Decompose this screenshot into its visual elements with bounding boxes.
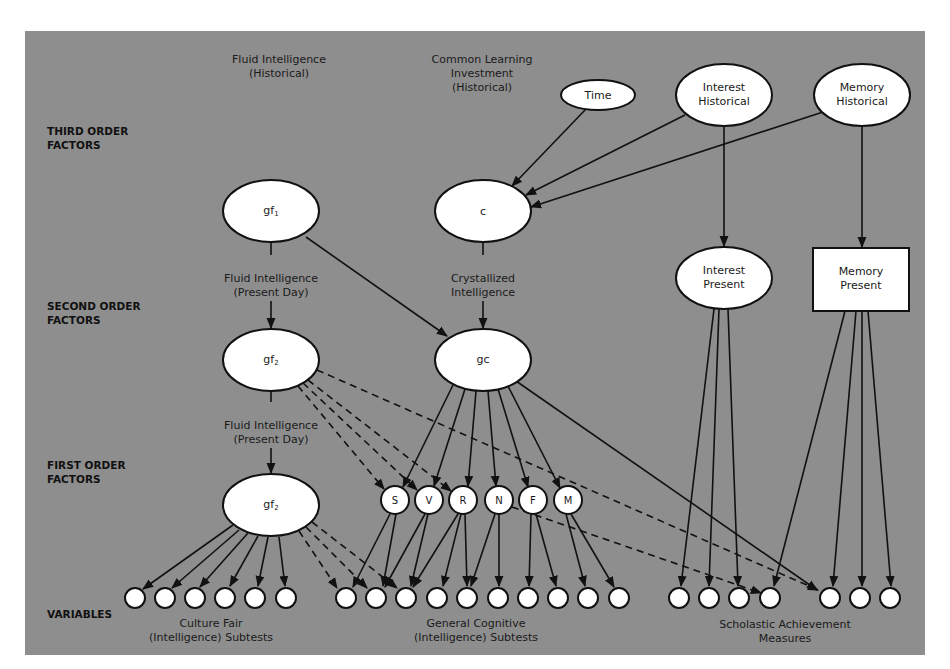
svg-text:(Present Day): (Present Day) xyxy=(233,286,308,299)
svg-text:FACTORS: FACTORS xyxy=(47,314,101,326)
node-gf2-first-order[interactable]: gf2 xyxy=(223,474,319,536)
svg-text:(Intelligence) Subtests: (Intelligence) Subtests xyxy=(149,631,273,644)
svg-text:Present: Present xyxy=(840,279,882,292)
variable-node[interactable] xyxy=(155,588,175,608)
svg-text:FIRST ORDER: FIRST ORDER xyxy=(47,459,126,471)
variable-node[interactable] xyxy=(609,588,629,608)
svg-text:General Cognitive: General Cognitive xyxy=(427,617,526,630)
svg-text:F: F xyxy=(530,495,536,506)
svg-text:R: R xyxy=(460,495,467,506)
variable-node[interactable] xyxy=(396,588,416,608)
variable-node[interactable] xyxy=(880,588,900,608)
svg-text:Scholastic Achievement: Scholastic Achievement xyxy=(719,618,851,631)
edge-label-fluid-present-day-upper: Fluid Intelligence (Present Day) xyxy=(224,272,318,299)
svg-text:c: c xyxy=(480,205,486,218)
variable-node[interactable] xyxy=(427,588,447,608)
variable-node[interactable] xyxy=(729,588,749,608)
svg-text:(Present Day): (Present Day) xyxy=(233,433,308,446)
svg-text:V: V xyxy=(426,495,433,506)
variable-node[interactable] xyxy=(125,588,145,608)
node-primary-s[interactable]: S xyxy=(381,486,409,514)
svg-text:SECOND ORDER: SECOND ORDER xyxy=(47,300,141,312)
node-primary-r[interactable]: R xyxy=(449,486,477,514)
svg-text:FACTORS: FACTORS xyxy=(47,139,101,151)
variable-node[interactable] xyxy=(488,588,508,608)
svg-text:Present: Present xyxy=(703,278,745,291)
svg-text:Crystallized: Crystallized xyxy=(451,272,515,285)
node-memory-present[interactable]: Memory Present xyxy=(813,248,909,311)
node-primary-m[interactable]: M xyxy=(554,486,582,514)
node-memory-historical[interactable]: Memory Historical xyxy=(814,64,910,126)
variable-node[interactable] xyxy=(669,588,689,608)
svg-text:M: M xyxy=(564,495,573,506)
variable-node[interactable] xyxy=(850,588,870,608)
edge-label-fluid-present-day-lower: Fluid Intelligence (Present Day) xyxy=(224,419,318,446)
node-gf2-second-order[interactable]: gf2 xyxy=(223,329,319,391)
svg-text:Measures: Measures xyxy=(759,632,812,645)
variable-node[interactable] xyxy=(457,588,477,608)
variable-node[interactable] xyxy=(578,588,598,608)
variable-node[interactable] xyxy=(215,588,235,608)
node-time[interactable]: Time xyxy=(561,80,635,110)
svg-text:(Intelligence) Subtests: (Intelligence) Subtests xyxy=(414,631,538,644)
variable-node[interactable] xyxy=(185,588,205,608)
variable-node[interactable] xyxy=(548,588,568,608)
svg-text:THIRD ORDER: THIRD ORDER xyxy=(47,125,128,137)
variable-node[interactable] xyxy=(760,588,780,608)
svg-text:Fluid Intelligence: Fluid Intelligence xyxy=(224,272,318,285)
svg-text:Fluid Intelligence: Fluid Intelligence xyxy=(232,53,326,66)
variable-node[interactable] xyxy=(518,588,538,608)
svg-text:Investment: Investment xyxy=(451,67,514,80)
node-interest-present[interactable]: Interest Present xyxy=(676,247,772,309)
svg-text:gc: gc xyxy=(476,353,489,366)
node-primary-v[interactable]: V xyxy=(415,486,443,514)
node-gf1[interactable]: gf1 xyxy=(223,180,319,242)
svg-text:(Historical): (Historical) xyxy=(249,67,309,80)
variable-node[interactable] xyxy=(276,588,296,608)
svg-text:S: S xyxy=(392,495,398,506)
svg-text:Interest: Interest xyxy=(703,264,746,277)
variable-node[interactable] xyxy=(245,588,265,608)
node-primary-n[interactable]: N xyxy=(485,486,513,514)
variable-node[interactable] xyxy=(336,588,356,608)
svg-text:Time: Time xyxy=(584,89,612,102)
variable-node[interactable] xyxy=(366,588,386,608)
svg-text:Interest: Interest xyxy=(703,81,746,94)
svg-text:(Historical): (Historical) xyxy=(452,81,512,94)
svg-text:Memory: Memory xyxy=(840,81,885,94)
svg-text:VARIABLES: VARIABLES xyxy=(47,608,112,620)
svg-text:N: N xyxy=(495,495,502,506)
investment-theory-diagram: THIRD ORDER FACTORS SECOND ORDER FACTORS… xyxy=(0,0,950,669)
variable-node[interactable] xyxy=(699,588,719,608)
node-gc[interactable]: gc xyxy=(435,329,531,391)
level-label-variables: VARIABLES xyxy=(47,608,112,620)
svg-text:FACTORS: FACTORS xyxy=(47,473,101,485)
node-primary-f[interactable]: F xyxy=(519,486,547,514)
svg-text:Historical: Historical xyxy=(836,95,888,108)
variable-node[interactable] xyxy=(820,588,840,608)
svg-text:Intelligence: Intelligence xyxy=(451,286,515,299)
svg-text:Historical: Historical xyxy=(698,95,750,108)
node-interest-historical[interactable]: Interest Historical xyxy=(676,64,772,126)
svg-text:Memory: Memory xyxy=(839,265,884,278)
svg-text:Common Learning: Common Learning xyxy=(432,53,533,66)
edge-label-crystallized-intelligence: Crystallized Intelligence xyxy=(451,272,515,299)
svg-text:Culture Fair: Culture Fair xyxy=(179,617,243,630)
node-c[interactable]: c xyxy=(435,180,531,242)
svg-text:Fluid Intelligence: Fluid Intelligence xyxy=(224,419,318,432)
